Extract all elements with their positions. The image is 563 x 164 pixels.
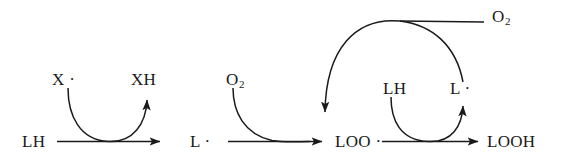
species-o2-left: O2: [226, 71, 244, 88]
species-looh: LOOH: [487, 133, 535, 150]
species-lh-cycle: LH: [383, 80, 406, 97]
curve-o2-into-loo: [233, 88, 310, 142]
species-xh: XH: [131, 71, 156, 88]
species-x-radical: X ·: [52, 71, 75, 88]
reaction-diagram: LH L · LOO · LOOH X · XH O2 LH L · O2: [0, 0, 563, 164]
reaction-arrows-svg: [0, 0, 563, 164]
species-l-radical: L ·: [190, 133, 211, 150]
species-o2-top: O2: [492, 8, 510, 25]
curve-x-radical-to-xh: [68, 88, 147, 142]
o2-left-subscript: 2: [239, 78, 245, 90]
species-l-radical-cycle: L ·: [450, 80, 471, 97]
curve-lh-to-l-radical-cycle: [391, 97, 463, 142]
o2-top-subscript: 2: [505, 15, 511, 27]
o2-top-symbol: O: [492, 7, 505, 26]
o2-left-symbol: O: [226, 70, 239, 89]
species-loo-radical: LOO ·: [335, 133, 381, 150]
curve-o2-top-big-arc: [325, 21, 484, 112]
species-lh-start: LH: [22, 133, 45, 150]
